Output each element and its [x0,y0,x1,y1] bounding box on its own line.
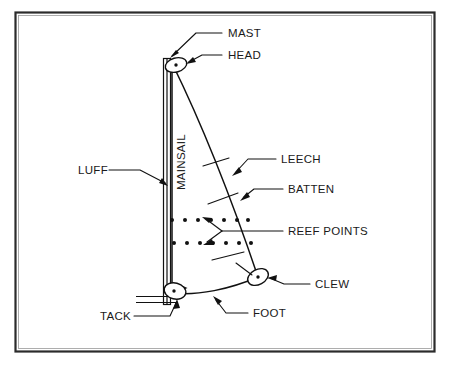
label-tack: TACK [100,310,131,322]
leech-leader [232,159,276,176]
label-clew: CLEW [315,278,349,290]
luff-leader [109,170,168,186]
batten-leader [240,189,283,201]
tack-leader [134,299,180,316]
diagram-frame [16,13,435,352]
label-leech: LEECH [281,153,321,165]
diagram-root: MAST HEAD LEECH BATTEN REEF POINTS CLEW … [0,0,450,372]
label-mainsail: MAINSAIL [175,134,187,190]
clew-leader [267,275,310,284]
foot-leader [213,296,248,313]
head-leader [186,55,222,64]
mast-leader [170,33,222,58]
label-foot: FOOT [253,307,286,319]
label-mast: MAST [228,27,261,39]
label-head: HEAD [228,49,261,61]
mainsail-diagram-svg: MAST HEAD LEECH BATTEN REEF POINTS CLEW … [0,0,450,372]
label-batten: BATTEN [288,183,334,195]
diagram-frame-inner [19,16,432,349]
label-luff: LUFF [78,164,108,176]
label-reef-points: REEF POINTS [288,225,368,237]
